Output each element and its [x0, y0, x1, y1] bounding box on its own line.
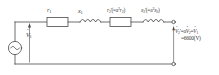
label-v1-symbol: V [26, 31, 30, 38]
terminal-top-circle [172, 20, 175, 23]
circuit-diagram: r1 x1 r2'(=a2r2) x2'(=a2x2) V1 V2'=aV2=V… [0, 0, 219, 75]
terminal-bottom-circle [172, 62, 175, 65]
inductor-x2-prime-body [143, 19, 164, 22]
label-v1-ref-subscript: 1 [196, 30, 198, 34]
label-inductor-x1: x1 [78, 8, 83, 16]
label-v2-symbol: V [186, 28, 189, 34]
label-resistor-r2-prime: r2'(=a2r2) [107, 7, 125, 14]
resistor-r2-prime-body [110, 18, 131, 27]
label-resistor-r1: r1 [47, 7, 51, 15]
label-output-voltage-value: =6600(V) [181, 36, 201, 42]
label-inductor-x2-prime: x2'(=a2x2) [141, 7, 160, 14]
inductor-x1-body [80, 19, 101, 22]
label-source-voltage-v1: V1 [26, 32, 32, 40]
label-v2p-equals-a: =a [181, 28, 186, 34]
label-v1-ref-symbol: V [193, 28, 196, 34]
label-r1-subscript: 1 [49, 9, 51, 14]
label-x2p-paren-close: ) [158, 7, 160, 13]
label-x1-subscript: 1 [81, 10, 83, 15]
label-output-voltage-expression: V2'=aV2=V1 [175, 29, 198, 35]
voltage-arrow-v1-head [28, 23, 31, 27]
label-v2p-symbol: V [175, 28, 178, 34]
resistor-r1-body [47, 18, 68, 27]
label-r2p-paren-close: ) [123, 7, 125, 13]
